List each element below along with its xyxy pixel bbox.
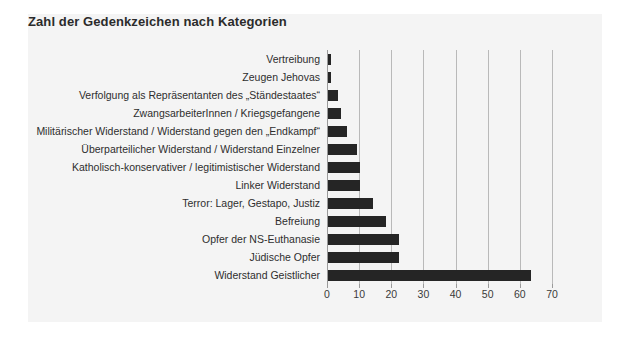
x-tick-label-10: 10 xyxy=(353,288,365,300)
category-label: Jüdische Opfer xyxy=(249,248,320,266)
screenshot-root: Zahl der Gedenkzeichen nach Kategorien 0… xyxy=(0,0,627,337)
x-tick-label-40: 40 xyxy=(450,288,462,300)
bar xyxy=(328,180,360,191)
category-label: Opfer der NS-Euthanasie xyxy=(202,230,320,248)
bar xyxy=(328,144,357,155)
category-label: Widerstand Geistlicher xyxy=(214,266,320,284)
bar xyxy=(328,72,331,83)
gridline-40 xyxy=(456,50,457,284)
bar xyxy=(328,198,373,209)
gridline-70 xyxy=(552,50,553,284)
chart-title: Zahl der Gedenkzeichen nach Kategorien xyxy=(28,14,287,29)
x-tick-label-70: 70 xyxy=(546,288,558,300)
category-label: Zeugen Jehovas xyxy=(242,68,320,86)
category-label: Verfolgung als Repräsentanten des „Ständ… xyxy=(79,86,320,104)
category-label: Vertreibung xyxy=(266,50,320,68)
category-label: Linker Widerstand xyxy=(235,176,320,194)
plot-area: 010203040506070VertreibungZeugen Jehovas… xyxy=(327,50,552,284)
x-tick-label-20: 20 xyxy=(385,288,397,300)
x-tick-label-50: 50 xyxy=(482,288,494,300)
gridline-30 xyxy=(423,50,424,284)
gridline-20 xyxy=(391,50,392,284)
bar xyxy=(328,270,531,281)
bar xyxy=(328,54,331,65)
category-label: Überparteilicher Widerstand / Widerstand… xyxy=(81,140,320,158)
x-tick-label-60: 60 xyxy=(514,288,526,300)
category-label: Terror: Lager, Gestapo, Justiz xyxy=(182,194,320,212)
x-tick-label-0: 0 xyxy=(324,288,330,300)
category-label: Befreiung xyxy=(275,212,320,230)
bar xyxy=(328,126,347,137)
gridline-50 xyxy=(488,50,489,284)
bar xyxy=(328,108,341,119)
x-tick-label-30: 30 xyxy=(418,288,430,300)
category-label: Militärischer Widerstand / Widerstand ge… xyxy=(36,122,320,140)
bar xyxy=(328,216,386,227)
bar xyxy=(328,234,399,245)
category-label: ZwangsarbeiterInnen / Kriegsgefangene xyxy=(133,104,320,122)
bar xyxy=(328,162,360,173)
category-label: Katholisch-konservativer / legitimistisc… xyxy=(72,158,320,176)
gridline-60 xyxy=(520,50,521,284)
bar xyxy=(328,90,338,101)
bar xyxy=(328,252,399,263)
